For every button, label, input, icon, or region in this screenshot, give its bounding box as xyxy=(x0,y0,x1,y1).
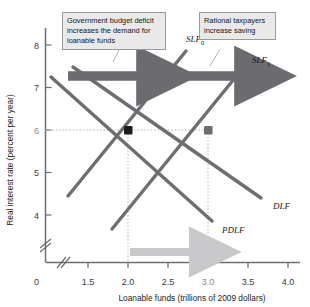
x-axis-title: Loanable funds (trillions of 2009 dollar… xyxy=(118,293,265,303)
x-axis xyxy=(46,257,301,268)
y-tick-label-5: 5 xyxy=(34,168,39,178)
curve-label-SLF1-text: SLF xyxy=(252,55,268,65)
curve-label-SLF1-sub: 1 xyxy=(267,60,270,67)
y-tick-label-0: 0 xyxy=(34,277,39,287)
y-axis-title: Real interest rate (percent per year) xyxy=(5,94,15,226)
y-tick-label-8: 8 xyxy=(34,41,39,51)
callout-government-budget-deficit: Government budget deficit increases the … xyxy=(62,12,166,50)
x-tick-label-3-5: 3.5 xyxy=(242,277,255,287)
callout-rational-taxpayers: Rational taxpayers increase saving xyxy=(199,12,276,40)
x-tick-label-2-5: 2.5 xyxy=(162,277,175,287)
x-tick-label-4-0: 4.0 xyxy=(282,277,295,287)
y-tick-label-7: 7 xyxy=(34,83,39,93)
curve-label-DLF-text: DLF xyxy=(272,201,291,211)
equilibrium-initial-marker xyxy=(124,126,133,135)
curve-label-PDLF-text: PDLF xyxy=(221,225,245,235)
x-tick-label-1-5: 1.5 xyxy=(82,277,95,287)
x-tick-label-3-0: 3.0 xyxy=(202,277,215,287)
curve-label-SLF1: SLF1 xyxy=(252,55,270,67)
y-tick-label-6: 6 xyxy=(34,126,39,136)
loanable-funds-figure: 8 7 6 5 4 0 1.5 2.0 2.5 3.0 3.5 4.0 Real… xyxy=(0,0,310,307)
equilibrium-new-marker xyxy=(204,126,213,135)
svg-text:SLF1: SLF1 xyxy=(252,55,270,67)
saving-callout-leader xyxy=(210,49,220,66)
y-axis xyxy=(40,28,52,262)
curve-label-DLF: DLF xyxy=(272,201,291,211)
curve-DLF xyxy=(73,67,261,198)
y-tick-label-4: 4 xyxy=(34,211,39,221)
curve-label-PDLF: PDLF xyxy=(221,225,245,235)
x-tick-label-2-0: 2.0 xyxy=(122,277,135,287)
